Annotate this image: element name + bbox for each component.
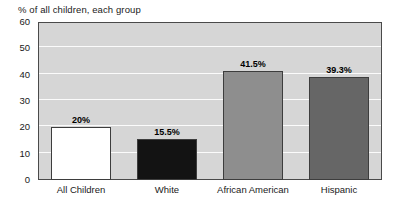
bar <box>137 139 197 180</box>
x-tick-label: All Children <box>38 184 124 196</box>
bar-chart: % of all children, each group 0102030405… <box>0 0 412 205</box>
y-tick-label: 10 <box>19 149 30 159</box>
x-tick-label: African American <box>210 184 296 196</box>
y-axis: 0102030405060 <box>0 22 34 180</box>
y-tick-label: 50 <box>19 43 30 53</box>
x-axis: All ChildrenWhiteAfrican AmericanHispani… <box>38 184 382 200</box>
y-tick-label: 40 <box>19 70 30 80</box>
bar <box>51 127 111 180</box>
bar-value-label: 20% <box>51 115 111 125</box>
bars-layer: 20%15.5%41.5%39.3% <box>38 22 382 180</box>
y-tick-label: 30 <box>19 96 30 106</box>
y-tick-label: 60 <box>19 17 30 27</box>
bar <box>309 77 369 180</box>
bar-value-label: 41.5% <box>223 59 283 69</box>
x-tick-label: Hispanic <box>296 184 382 196</box>
x-tick-label: White <box>124 184 210 196</box>
bar <box>223 71 283 180</box>
y-tick-label: 0 <box>25 175 30 185</box>
chart-title: % of all children, each group <box>18 4 141 15</box>
bar-value-label: 15.5% <box>137 127 197 137</box>
y-tick-label: 20 <box>19 122 30 132</box>
bar-value-label: 39.3% <box>309 65 369 75</box>
